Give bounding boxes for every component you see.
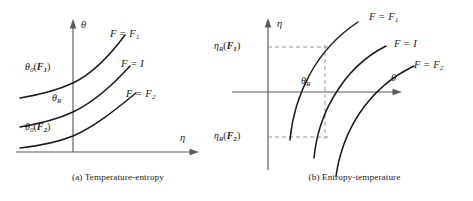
axis-label-eta: η — [277, 19, 282, 30]
panel-entropy-temperature: η θ ηR(F1) θR ηR(F2) F = F1 F = I F = F2… — [236, 0, 473, 201]
curve-label-F2: F = F2 — [414, 60, 444, 72]
label-thetaR: θR — [52, 93, 61, 105]
label-thetaR: θR — [301, 76, 310, 88]
caption-panel-a: (a) Temperature-entropy — [0, 172, 236, 182]
curve-label-I: F = I — [121, 59, 144, 71]
curve-label-F2: F = F2 — [126, 89, 156, 101]
label-theta0-F2: θ0(F2) — [25, 122, 50, 134]
curve-label-F1: F = F1 — [369, 12, 399, 24]
caption-panel-b: (b) Entropy-temperature — [236, 172, 473, 182]
panel-b-drawing — [236, 0, 473, 201]
axis-label-eta: η — [180, 133, 185, 144]
curve-F2 — [336, 66, 414, 176]
eta-axis — [265, 18, 272, 170]
curve-I — [20, 66, 130, 127]
label-theta0-F1: θ0(F1) — [25, 62, 50, 74]
curve-label-F1: F = F1 — [110, 29, 140, 41]
label-etaR-F1: ηR(F1) — [214, 41, 240, 53]
panel-temperature-entropy: θ η θ0(F1) θR θ0(F2) F = F1 F = I F = F2… — [0, 0, 236, 201]
axis-label-theta: θ — [81, 20, 86, 31]
figure-container: θ η θ0(F1) θR θ0(F2) F = F1 F = I F = F2… — [0, 0, 473, 201]
curve-label-I: F = I — [394, 39, 417, 51]
theta-axis — [70, 19, 77, 152]
axis-label-theta: θ — [391, 73, 396, 84]
eta-axis — [16, 149, 199, 156]
label-etaR-F2: ηR(F2) — [214, 131, 240, 143]
